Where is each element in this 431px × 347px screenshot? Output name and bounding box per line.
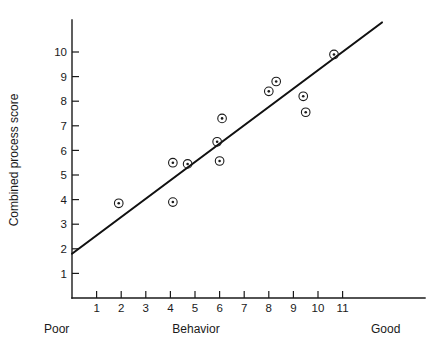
data-point (218, 114, 227, 123)
y-tick-label: 10 (54, 46, 67, 58)
y-tick-label: 8 (61, 95, 67, 107)
plot-canvas: 12345678910 1234567891011 Combined proce… (0, 0, 431, 347)
regression-line-group (72, 22, 382, 253)
y-tick-label: 1 (61, 268, 67, 280)
axes-group (72, 20, 425, 298)
y-tick-label: 5 (61, 169, 67, 181)
x-axis-title: Behavior (172, 322, 219, 336)
data-point-center-dot (221, 117, 224, 120)
data-point-center-dot (172, 161, 175, 164)
x-tick-label: 2 (118, 302, 124, 314)
y-tick-label: 2 (61, 243, 67, 255)
x-tick-label: 7 (241, 302, 247, 314)
data-point-center-dot (302, 95, 305, 98)
data-point-center-dot (218, 160, 221, 163)
x-tick-label: 8 (266, 302, 272, 314)
data-points-group (114, 50, 338, 207)
data-point (299, 92, 308, 101)
x-axis-low-label: Poor (44, 322, 69, 336)
x-tick-label: 10 (312, 302, 325, 314)
x-tick-label: 9 (290, 302, 296, 314)
data-point (169, 198, 178, 207)
x-tick-label: 1 (93, 302, 99, 314)
y-tick-label: 4 (61, 194, 68, 206)
regression-line (72, 22, 382, 253)
x-tick-label: 6 (216, 302, 222, 314)
y-axis-ticks: 12345678910 (54, 46, 79, 279)
data-point (114, 199, 123, 208)
data-point (169, 158, 178, 167)
data-point-center-dot (117, 202, 120, 205)
y-tick-label: 3 (61, 218, 67, 230)
data-point (301, 108, 310, 117)
data-point-center-dot (333, 53, 336, 56)
y-tick-label: 6 (61, 145, 67, 157)
data-point-center-dot (216, 140, 219, 143)
y-tick-label: 7 (61, 120, 67, 132)
data-point (265, 87, 274, 96)
x-tick-label: 11 (337, 302, 349, 314)
x-tick-label: 5 (192, 302, 198, 314)
y-tick-label: 9 (61, 71, 67, 83)
data-point-center-dot (172, 201, 175, 204)
y-axis-title: Combined process score (7, 93, 21, 226)
data-point-center-dot (304, 111, 307, 114)
data-point (272, 77, 281, 86)
x-axis-ticks: 1234567891011 (93, 291, 348, 314)
data-point-center-dot (186, 163, 189, 166)
scatter-plot-figure: 12345678910 1234567891011 Combined proce… (0, 0, 431, 347)
data-point-center-dot (275, 80, 278, 83)
x-axis-high-label: Good (371, 322, 400, 336)
data-point (215, 157, 224, 166)
data-point-center-dot (268, 90, 271, 93)
x-tick-label: 3 (143, 302, 149, 314)
x-tick-label: 4 (167, 302, 174, 314)
